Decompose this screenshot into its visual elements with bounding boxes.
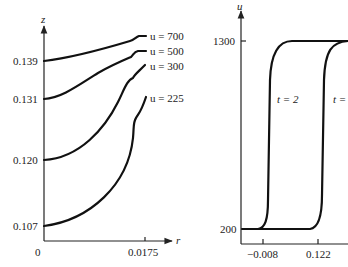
- curve-label-u-500: u = 500: [150, 45, 184, 57]
- right-chart: u 1300 200 −0.008 0.122 t = 2 t =: [213, 0, 348, 260]
- curve-t-2: [242, 41, 348, 229]
- origin-label: 0: [35, 246, 41, 258]
- curve-u-300: [44, 65, 145, 160]
- left-chart: z r 0 0.0175 0.139 0.131 0.120 0.107 u =…: [13, 13, 184, 258]
- y-tick-label-0.131: 0.131: [13, 93, 38, 105]
- curve-label-u-700: u = 700: [150, 30, 184, 42]
- y-tick-label-0.107: 0.107: [13, 220, 38, 232]
- y-tick-label-1300: 1300: [213, 35, 236, 47]
- figure: z r 0 0.0175 0.139 0.131 0.120 0.107 u =…: [0, 0, 348, 267]
- curve-label-t-2: t = 2: [277, 93, 299, 105]
- curve-label-u-225: u = 225: [150, 92, 184, 104]
- z-axis-label: z: [40, 13, 46, 25]
- u-axis-label: u: [237, 0, 243, 12]
- r-axis-label: r: [176, 234, 181, 246]
- curve-label-t-later: t =: [333, 93, 346, 105]
- y-tick-label-0.120: 0.120: [13, 154, 38, 166]
- x-tick-label-neg-0.008: −0.008: [247, 248, 278, 260]
- curve-label-u-300: u = 300: [150, 60, 184, 72]
- curve-u-225: [44, 97, 146, 226]
- y-tick-label-0.139: 0.139: [13, 55, 38, 67]
- x-tick-label-0.122: 0.122: [306, 248, 331, 260]
- y-tick-label-200: 200: [220, 223, 237, 235]
- x-tick-label: 0.0175: [128, 246, 159, 258]
